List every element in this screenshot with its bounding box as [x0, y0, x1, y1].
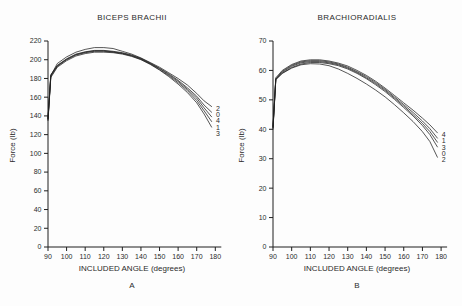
curve-trial-1 [48, 51, 212, 121]
x-tick-label: 180 [209, 253, 221, 260]
y-tick-label: 70 [259, 37, 267, 44]
curve-trial-2 [273, 64, 437, 158]
y-tick-label: 20 [259, 185, 267, 192]
y-tick-label: 20 [34, 225, 42, 232]
axes-lines [48, 41, 221, 247]
x-tick-label: 100 [286, 253, 298, 260]
y-tick-label: 100 [30, 150, 42, 157]
chart-title-biceps: BICEPS BRACHII [48, 13, 216, 22]
x-tick-label: 110 [305, 253, 316, 260]
x-tick-label: 140 [135, 253, 147, 260]
brachioradialis-chart-svg: 0102030405060709010011012013014015016017… [231, 0, 462, 306]
panel-letter-a: A [48, 281, 216, 290]
panel-b: 0102030405060709010011012013014015016017… [231, 0, 462, 306]
curve-trial-3 [273, 62, 437, 143]
x-tick-label: 150 [379, 253, 391, 260]
y-tick-label: 10 [259, 214, 267, 221]
y-tick-label: 0 [263, 243, 267, 250]
x-tick-label: 100 [61, 253, 73, 260]
chart-title-brachioradialis: BRACHIORADIALIS [273, 13, 441, 22]
y-axis-label-brachioradialis: Force (lb) [237, 96, 248, 196]
panel-letter-b: B [273, 281, 441, 290]
x-axis-label-biceps: INCLUDED ANGLE (degrees) [48, 264, 216, 273]
x-tick-label: 160 [398, 253, 410, 260]
y-tick-label: 160 [30, 94, 42, 101]
y-tick-label: 30 [259, 155, 267, 162]
x-tick-label: 170 [417, 253, 429, 260]
y-tick-label: 40 [34, 206, 42, 213]
x-tick-label: 120 [98, 253, 110, 260]
y-tick-label: 40 [259, 126, 267, 133]
y-tick-label: 200 [30, 56, 42, 63]
x-tick-label: 140 [361, 253, 373, 260]
curve-end-label-3: 3 [216, 130, 220, 137]
x-tick-label: 150 [154, 253, 166, 260]
y-tick-label: 60 [259, 67, 267, 74]
x-tick-label: 120 [323, 253, 335, 260]
biceps-chart-svg: 0204060801001201401601802002209010011012… [0, 0, 231, 306]
panel-a: 0204060801001201401601802002209010011012… [0, 0, 231, 306]
muscle-force-figure: 0204060801001201401601802002209010011012… [0, 0, 462, 306]
y-tick-label: 50 [259, 96, 267, 103]
x-tick-label: 130 [342, 253, 354, 260]
y-tick-label: 220 [30, 37, 42, 44]
y-tick-label: 140 [30, 112, 42, 119]
x-tick-label: 180 [435, 253, 447, 260]
y-tick-label: 180 [30, 75, 42, 82]
x-axis-label-brachioradialis: INCLUDED ANGLE (degrees) [273, 264, 441, 273]
y-tick-label: 120 [30, 131, 42, 138]
x-tick-label: 160 [172, 253, 184, 260]
x-tick-label: 130 [117, 253, 129, 260]
y-tick-label: 0 [38, 243, 42, 250]
curve-end-label-2: 2 [442, 156, 446, 163]
y-tick-label: 80 [34, 168, 42, 175]
curve-trial-0 [273, 63, 437, 147]
x-tick-label: 170 [191, 253, 203, 260]
curve-trial-3 [48, 52, 212, 127]
x-tick-label: 90 [269, 253, 277, 260]
curve-trial-2 [48, 48, 212, 119]
curve-trial-4 [48, 51, 212, 118]
x-tick-label: 110 [80, 253, 91, 260]
x-tick-label: 90 [44, 253, 52, 260]
y-tick-label: 60 [34, 187, 42, 194]
y-axis-label-biceps: Force (lb) [8, 96, 19, 196]
